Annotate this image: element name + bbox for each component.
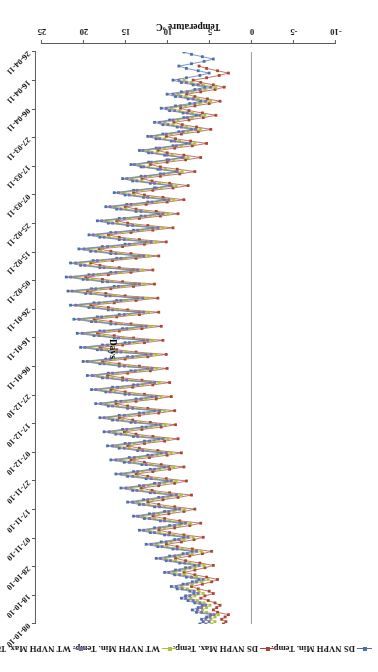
series-canvas (42, 52, 336, 624)
days-tick-label: 17-03-11 (5, 164, 32, 191)
legend-item-ds-nvph-max-temp[interactable]: DS NVPH Max. Temp. (173, 644, 275, 654)
legend-label-ds-max: DS NVPH Max. Temp. (173, 644, 258, 654)
series-wt-nvph-max-temp (69, 79, 215, 624)
temperature-axis-line (42, 43, 336, 44)
days-tick (32, 195, 36, 196)
temperature-tick-label: -10 (321, 27, 351, 37)
temperature-tick (209, 40, 210, 44)
days-tick-label: 06-04-11 (5, 107, 32, 134)
series-wt-nvph-min-temp (74, 79, 220, 624)
legend-item-wt-nvph-min-temp[interactable]: WT NVPH Min. Temp. (73, 644, 177, 654)
legend-swatch-ds-max (260, 648, 275, 649)
days-tick (32, 80, 36, 81)
days-tick-label: 16-04-11 (5, 78, 32, 105)
temperature-tick (293, 40, 294, 44)
days-tick-label: 15-02-11 (5, 250, 32, 277)
days-tick (32, 280, 36, 281)
legend-item-ds-nvph-min-temp[interactable]: DS NVPH Min. Temp. (271, 644, 372, 654)
days-tick (32, 223, 36, 224)
days-tick-label: 17-12-10 (5, 421, 33, 449)
days-tick (32, 595, 36, 596)
days-tick (32, 566, 36, 567)
temperature-axis-title: Temperature ºC (108, 22, 268, 32)
days-tick (32, 309, 36, 310)
days-tick (32, 509, 36, 510)
days-tick (32, 252, 36, 253)
plot-area (42, 52, 336, 624)
days-tick-label: 27-12-10 (5, 393, 33, 421)
days-tick-label: 05-02-11 (5, 278, 32, 305)
days-tick (32, 538, 36, 539)
temperature-line-chart: DS NVPH Min. Temp. DS NVPH Max. Temp. WT… (0, 0, 378, 672)
days-tick (32, 423, 36, 424)
temperature-tick-label: -5 (279, 27, 309, 37)
days-tick-label: 06-01-11 (5, 364, 32, 391)
days-tick (32, 338, 36, 339)
zero-reference-line (251, 52, 252, 624)
temperature-tick (335, 40, 336, 44)
days-tick-label: 17-11-10 (5, 507, 32, 534)
figure-rotation-wrapper: DS NVPH Min. Temp. DS NVPH Max. Temp. WT… (0, 0, 378, 672)
temperature-tick (41, 40, 42, 44)
chart-legend: DS NVPH Min. Temp. DS NVPH Max. Temp. WT… (0, 632, 378, 658)
days-tick (32, 366, 36, 367)
days-tick-label: 26-04-11 (5, 49, 32, 76)
temperature-tick (125, 40, 126, 44)
legend-label-ds-min: DS NVPH Min. Temp. (271, 644, 355, 654)
temperature-tick-label: 20 (69, 27, 99, 37)
temperature-tick (83, 40, 84, 44)
days-tick-label: 07-12-10 (5, 450, 33, 478)
days-tick (32, 109, 36, 110)
days-tick-label: 16-01-11 (5, 335, 32, 362)
days-tick (32, 166, 36, 167)
days-tick (32, 137, 36, 138)
days-tick-label: 27-11-10 (5, 478, 32, 505)
legend-swatch-wt-max (73, 648, 88, 649)
temperature-tick (167, 40, 168, 44)
days-tick-label: 27-03-11 (5, 135, 32, 162)
temperature-tick-label: 25 (27, 27, 57, 37)
legend-swatch-ds-min (357, 648, 372, 649)
days-tick-label: 26-01-11 (5, 307, 32, 334)
legend-swatch-wt-min (162, 648, 177, 649)
days-tick-label: 18-10-10 (5, 593, 33, 621)
days-tick-label: 07-03-11 (5, 192, 32, 219)
days-tick-label: 28-10-10 (5, 564, 33, 592)
days-tick (32, 624, 36, 625)
days-tick-label: 07-11-10 (5, 536, 32, 563)
days-tick (32, 452, 36, 453)
days-tick (32, 52, 36, 53)
days-tick-label: 25-02-11 (5, 221, 32, 248)
days-tick (32, 481, 36, 482)
temperature-tick (251, 40, 252, 44)
days-tick (32, 395, 36, 396)
days-axis-title: Days (108, 339, 118, 359)
